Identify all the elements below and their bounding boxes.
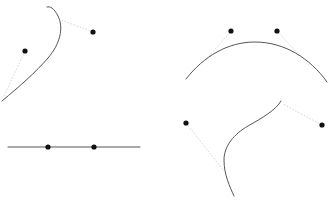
panel-top-left[interactable] [0,0,167,102]
panel-bottom-left[interactable] [0,103,167,205]
panel-top-right[interactable] [167,0,334,102]
panel-bottom-right[interactable] [167,103,334,205]
figure-root [0,0,334,205]
